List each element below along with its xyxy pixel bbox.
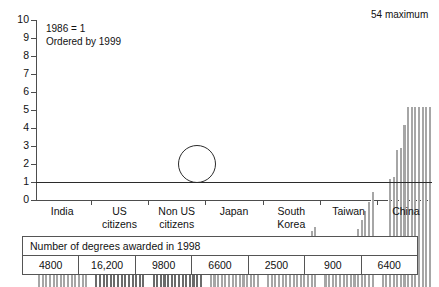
x-axis-label-line: Korea [254,218,328,231]
x-axis-label-line: citizens [140,218,214,231]
baseline-note: 1986 = 1 Ordered by 1999 [46,22,121,48]
x-axis-label-china: China [369,205,439,218]
degrees-growth-figure: 012345678910 IndiaUScitizensNon UScitize… [0,0,439,287]
y-tick-label-text: 2 [3,158,29,169]
table-title-row: Number of degrees awarded in 1998 [23,237,418,256]
y-tick-label-text: 0 [3,194,29,205]
y-tick-label-0: 0 [0,194,29,205]
non-us-citizens-peak-highlight-circle [178,145,216,183]
y-tick-label-text: 4 [3,122,29,133]
table-title: Number of degrees awarded in 1998 [23,237,418,256]
y-tick-label-3: 3 [0,140,29,151]
table-cell-degrees-2: 9800 [135,256,191,275]
baseline-note-line1: 1986 = 1 [46,22,121,35]
y-tick-label-text: 10 [3,14,29,25]
degrees-awarded-table: Number of degrees awarded in 1998 480016… [22,236,418,275]
table-cell-degrees-3: 6600 [192,256,248,275]
y-tick-7 [31,74,37,75]
y-tick-label-text: 7 [3,68,29,79]
reference-line-1986-equals-1 [36,182,432,183]
y-tick-6 [31,92,37,93]
y-tick-label-10: 10 [0,14,29,25]
x-axis-label-line: China [369,205,439,218]
y-tick-label-text: 8 [3,50,29,61]
table-cell-degrees-4: 2500 [248,256,304,275]
table-cell-degrees-5: 900 [305,256,361,275]
y-tick-label-5: 5 [0,104,29,115]
table-cell-degrees-6: 6400 [361,256,417,275]
y-tick-label-text: 6 [3,86,29,97]
y-tick-label-9: 9 [0,32,29,43]
y-tick-label-7: 7 [0,68,29,79]
baseline-note-line2: Ordered by 1999 [46,35,121,48]
y-tick-label-4: 4 [0,122,29,133]
max-value-note: 54 maximum [371,9,428,20]
y-tick-label-6: 6 [0,86,29,97]
y-tick-8 [31,56,37,57]
y-tick-label-text: 9 [3,32,29,43]
y-tick-label-text: 3 [3,140,29,151]
y-tick-label-text: 5 [3,104,29,115]
table-cell-degrees-0: 4800 [23,256,79,275]
y-tick-label-1: 1 [0,176,29,187]
y-tick-label-8: 8 [0,50,29,61]
y-tick-10 [31,20,37,21]
table-values-row: 480016,2009800660025009006400 [23,256,418,275]
y-tick-label-text: 1 [3,176,29,187]
bar [428,107,431,287]
bar [421,107,424,287]
y-tick-9 [31,38,37,39]
y-tick-label-2: 2 [0,158,29,169]
bar [424,107,427,287]
table-cell-degrees-1: 16,200 [79,256,135,275]
